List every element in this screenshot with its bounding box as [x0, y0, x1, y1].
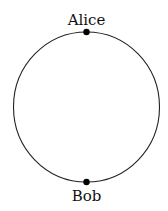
bob-node	[83, 179, 89, 185]
circle-path	[14, 32, 160, 182]
alice-label: Alice	[67, 11, 106, 29]
bob-label: Bob	[72, 187, 102, 205]
circle-diagram: Alice Bob	[0, 0, 168, 211]
alice-node	[83, 29, 89, 35]
